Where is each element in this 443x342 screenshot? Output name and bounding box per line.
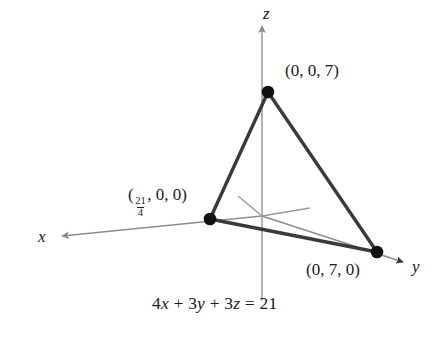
z-axis-label: z — [263, 5, 270, 22]
y-axis-negative-stub — [262, 208, 310, 216]
plane-intercept-figure: z x y (0, 0, 7) (214, 0, 0) (0, 7, 0) 4x… — [0, 0, 443, 342]
fraction-numerator: 21 — [134, 196, 147, 207]
equals-sign: = — [245, 293, 255, 313]
point-label-z-intercept: (0, 0, 7) — [285, 62, 339, 79]
x-intercept-label-tail: , 0, 0) — [147, 185, 187, 204]
x-axis-label: x — [38, 228, 46, 245]
coefficient-z: 3 — [224, 293, 233, 313]
plane-triangle — [210, 92, 377, 252]
fraction-21-over-4: 214 — [134, 196, 147, 219]
coefficient-x: 4 — [152, 293, 161, 313]
variable-z: z — [233, 293, 240, 313]
point-marker-z-intercept — [262, 86, 275, 99]
point-marker-y-intercept — [371, 246, 384, 259]
point-marker-x-intercept — [204, 213, 217, 226]
triangle-edge-x-to-y — [210, 219, 377, 252]
triangle-edge-z-to-y — [268, 92, 377, 252]
variable-x: x — [161, 293, 169, 313]
coefficient-y: 3 — [188, 293, 197, 313]
x-axis-negative-stub — [238, 196, 262, 216]
paren-open: ( — [128, 185, 134, 204]
triangle-edge-z-to-x — [210, 92, 268, 219]
diagram-canvas — [0, 0, 443, 342]
fraction-denominator: 4 — [137, 207, 144, 219]
operator-plus-2: + — [210, 293, 220, 313]
point-label-y-intercept: (0, 7, 0) — [306, 261, 360, 278]
plane-equation: 4x + 3y + 3z = 21 — [152, 295, 277, 313]
operator-plus-1: + — [174, 293, 184, 313]
variable-y: y — [197, 293, 205, 313]
point-label-x-intercept: (214, 0, 0) — [128, 186, 187, 219]
y-axis-label: y — [412, 258, 420, 275]
equation-rhs: 21 — [260, 293, 278, 313]
